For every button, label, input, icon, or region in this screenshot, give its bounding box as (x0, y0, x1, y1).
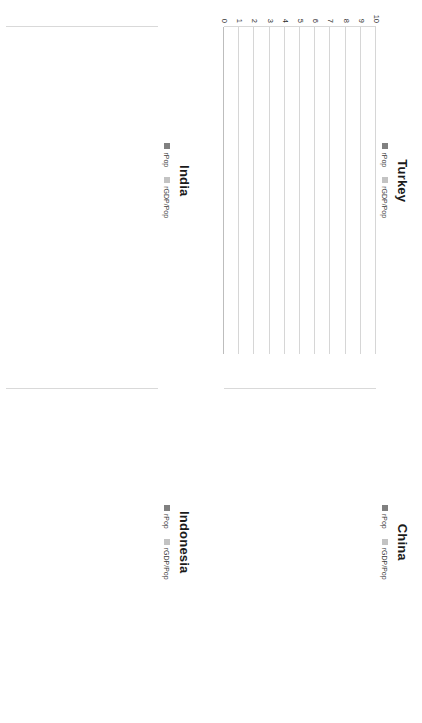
gridline (284, 27, 285, 354)
panel-title: Turkey (394, 8, 410, 354)
y-axis-tick-label: 7 (326, 19, 335, 23)
y-axis-tick-label: 6 (311, 19, 320, 23)
x-axis-line (223, 27, 224, 354)
plot (224, 26, 376, 354)
bar-group (224, 389, 376, 716)
y-axis-tick-label: 0 (220, 19, 229, 23)
gridline (269, 27, 270, 354)
legend-swatch-rgdppop (382, 539, 388, 545)
bar-group (6, 27, 158, 354)
legend-label-rpop: rPop (382, 514, 389, 529)
legend-item-rpop: rPop (382, 505, 389, 529)
gridline (329, 27, 330, 354)
panel-turkey: Turkey rPop rGDP/Pop 109876543210 (204, 0, 422, 362)
plot-area (224, 370, 376, 716)
y-axis-tick-label: 5 (296, 19, 305, 23)
legend: rPop rGDP/Pop (160, 8, 174, 354)
y-axis-tick-label: 8 (341, 19, 350, 23)
panel-title: Indonesia (176, 370, 192, 716)
y-axis-tick-label: 3 (265, 19, 274, 23)
plot (6, 388, 158, 716)
y-axis-tick-label: 10 (372, 15, 381, 23)
plot-area (6, 370, 158, 716)
plot (6, 26, 158, 354)
panel-title: India (176, 8, 192, 354)
legend-label-rpop: rPop (382, 152, 389, 167)
legend-label-rpop: rPop (164, 514, 171, 529)
legend: rPop rGDP/Pop (378, 8, 392, 354)
legend-label-rgdppop: rGDP/Pop (382, 548, 389, 580)
legend: rPop rGDP/Pop (378, 370, 392, 716)
panel-india: India rPop rGDP/Pop (0, 0, 204, 362)
legend-label-rpop: rPop (164, 152, 171, 167)
legend-swatch-rpop (164, 143, 170, 149)
legend-item-rgdppop: rGDP/Pop (382, 177, 389, 218)
y-axis (6, 370, 158, 388)
panel-china: China rPop rGDP/Pop (204, 362, 422, 723)
figure-canvas: Turkey rPop rGDP/Pop 109876543210 (0, 0, 422, 723)
panel-title: China (394, 370, 410, 716)
legend-item-rgdppop: rGDP/Pop (382, 539, 389, 580)
y-axis-tick-label: 9 (356, 19, 365, 23)
plot (224, 388, 376, 716)
gridline (360, 27, 361, 354)
legend: rPop rGDP/Pop (160, 370, 174, 716)
gridline (238, 27, 239, 354)
panel-indonesia: Indonesia rPop rGDP/Pop (0, 362, 204, 723)
bar-group (224, 27, 376, 354)
y-axis-tick-label: 2 (250, 19, 259, 23)
legend-swatch-rgdppop (164, 177, 170, 183)
legend-label-rgdppop: rGDP/Pop (164, 548, 171, 580)
y-axis (6, 8, 158, 26)
bar-group (6, 389, 158, 716)
plot-area: 109876543210 (224, 8, 376, 354)
legend-swatch-rpop (382, 505, 388, 511)
gridline (345, 27, 346, 354)
plot-area (6, 8, 158, 354)
legend-swatch-rpop (382, 143, 388, 149)
legend-swatch-rgdppop (164, 539, 170, 545)
gridline (375, 27, 376, 354)
x-axis-labels (210, 26, 224, 354)
legend-item-rpop: rPop (164, 143, 171, 167)
x-axis-labels (210, 388, 224, 716)
y-axis-tick-label: 1 (235, 19, 244, 23)
panel-grid: Turkey rPop rGDP/Pop 109876543210 (0, 0, 422, 723)
gridline (314, 27, 315, 354)
gridline (299, 27, 300, 354)
legend-label-rgdppop: rGDP/Pop (164, 186, 171, 218)
y-axis: 109876543210 (224, 8, 376, 26)
legend-label-rgdppop: rGDP/Pop (382, 186, 389, 218)
gridline (253, 27, 254, 354)
legend-item-rpop: rPop (382, 143, 389, 167)
y-axis-tick-label: 4 (280, 19, 289, 23)
legend-swatch-rgdppop (382, 177, 388, 183)
legend-item-rpop: rPop (164, 505, 171, 529)
legend-item-rgdppop: rGDP/Pop (164, 177, 171, 218)
legend-item-rgdppop: rGDP/Pop (164, 539, 171, 580)
legend-swatch-rpop (164, 505, 170, 511)
y-axis (224, 370, 376, 388)
